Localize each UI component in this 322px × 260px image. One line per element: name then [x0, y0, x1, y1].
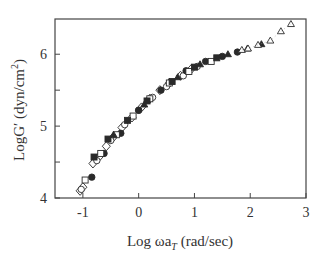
- series-filled-square: [91, 55, 220, 160]
- x-tick-label: 1: [191, 205, 198, 220]
- series-open-circle: [78, 63, 200, 192]
- series-open-square: [82, 58, 214, 183]
- y-tick-label: 6: [40, 47, 47, 62]
- y-axis-title: LogG′ (dyn/cm2): [9, 59, 28, 161]
- x-tick-label: -1: [77, 205, 89, 220]
- series-filled-triangle: [110, 41, 265, 138]
- data-points: [76, 21, 294, 196]
- y-tick-label: 4: [40, 191, 47, 206]
- series-open-triangle: [238, 21, 294, 53]
- y-tick-labels: 456: [40, 47, 47, 206]
- x-axis-title: Log ωaT (rad/sec): [127, 233, 233, 252]
- x-tick-label: 3: [303, 205, 310, 220]
- x-tick-labels: -10123: [77, 205, 309, 220]
- chart-canvas: -10123 456 Log ωaT (rad/sec) LogG′ (dyn/…: [0, 0, 322, 260]
- series-filled-circle: [89, 49, 241, 180]
- plot-frame: [55, 19, 306, 198]
- y-tick-label: 5: [40, 119, 47, 134]
- x-tick-label: 2: [247, 205, 254, 220]
- x-tick-label: 0: [135, 205, 142, 220]
